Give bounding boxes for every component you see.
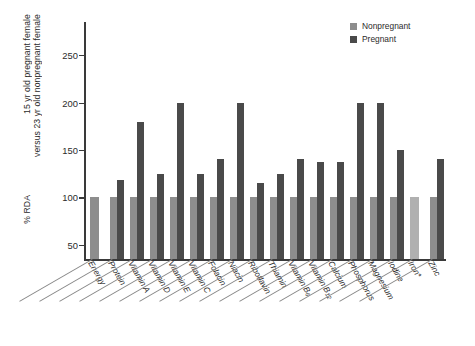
chart-legend: Nonpregnant Pregnant (350, 21, 410, 47)
bar-group (246, 22, 266, 259)
y-tick-label: 200 (62, 97, 78, 108)
legend-swatch-nonpregnant-icon (350, 23, 357, 30)
legend-item-nonpregnant: Nonpregnant (350, 21, 410, 31)
y-axis-unit-label: % RDA (22, 195, 32, 224)
bar-group (86, 22, 106, 259)
y-axis-title-line-1: 15 yr old pregnant female (22, 14, 32, 114)
bar-group (426, 22, 446, 259)
bar-group (266, 22, 286, 259)
bar-group (126, 22, 146, 259)
bar-nonpregnant (90, 197, 99, 259)
bar-pregnant (137, 122, 144, 259)
y-tick-mark (79, 197, 85, 198)
bar-group (166, 22, 186, 259)
bar-pregnant (277, 174, 284, 259)
bar-group (286, 22, 306, 259)
y-tick-mark (79, 245, 85, 246)
bar-group (366, 22, 386, 259)
y-tick-mark (79, 103, 85, 104)
y-tick-label: 100 (62, 192, 78, 203)
y-tick-label: 150 (62, 144, 78, 155)
x-tick-label: Zinc (426, 259, 443, 278)
bar-pregnant (437, 159, 444, 259)
y-tick-mark (79, 150, 85, 151)
bar-group (206, 22, 226, 259)
bar-group (106, 22, 126, 259)
bar-series-group (86, 22, 446, 259)
bar-pregnant (357, 103, 364, 259)
bar-pregnant (297, 159, 304, 259)
bar-group (306, 22, 326, 259)
bar-pregnant (177, 103, 184, 259)
legend-label-nonpregnant: Nonpregnant (362, 21, 410, 31)
x-axis-labels: EnergyProteinVitamin AVitamin DVitamin E… (86, 259, 475, 346)
bar-group (386, 22, 406, 259)
chart-container: 15 yr old pregnant female versus 23 yr o… (0, 0, 475, 346)
bar-pregnant (117, 180, 124, 259)
bar-group (226, 22, 246, 259)
y-axis-title-line-2: versus 23 yr old nonpregnant female (32, 14, 42, 157)
bar-group (346, 22, 366, 259)
bar-pregnant (217, 159, 224, 259)
y-tick-mark (79, 55, 85, 56)
bar-pregnant (197, 174, 204, 259)
legend-label-pregnant: Pregnant (362, 34, 396, 44)
bar-pregnant (317, 162, 324, 259)
legend-swatch-pregnant-icon (350, 36, 357, 43)
legend-item-pregnant: Pregnant (350, 34, 410, 44)
bar-pregnant (257, 183, 264, 259)
bar-group (326, 22, 346, 259)
bar-group (406, 22, 426, 259)
y-axis-title-block: 15 yr old pregnant female versus 23 yr o… (0, 0, 56, 270)
y-tick-label: 50 (68, 239, 78, 250)
y-tick-label: 250 (62, 50, 78, 61)
bar-pregnant (237, 103, 244, 259)
bar-group (186, 22, 206, 259)
bar-group (146, 22, 166, 259)
plot-area: 50100150200250 (86, 22, 446, 259)
bar-pregnant (377, 103, 384, 259)
bar-pregnant (397, 150, 404, 259)
bar-nonpregnant (410, 197, 419, 259)
bar-pregnant (337, 162, 344, 259)
bar-pregnant (157, 174, 164, 259)
